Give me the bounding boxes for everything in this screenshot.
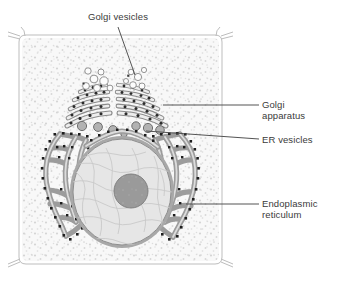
nucleus <box>70 136 174 248</box>
nucleolus <box>114 174 148 208</box>
figure-canvas: Golgi vesicles Golgi apparatus ER vesicl… <box>0 0 343 288</box>
label-er-vesicles: ER vesicles <box>262 134 313 145</box>
label-endoplasmic-reticulum: Endoplasmic reticulum <box>262 198 318 220</box>
label-golgi-vesicles: Golgi vesicles <box>88 11 148 22</box>
label-golgi-apparatus: Golgi apparatus <box>262 99 305 121</box>
